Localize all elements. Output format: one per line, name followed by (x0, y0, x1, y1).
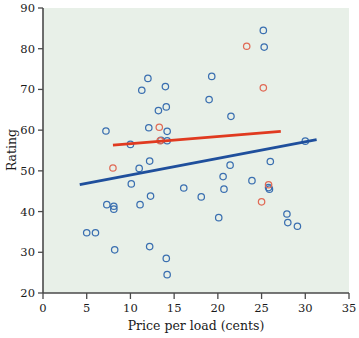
x-tick-label: 25 (254, 301, 269, 315)
y-tick-label: 70 (20, 82, 35, 96)
x-axis-title: Price per load (cents) (128, 318, 265, 333)
x-tick-label: 5 (83, 301, 90, 315)
x-tick-label: 20 (211, 301, 226, 315)
plot-background (43, 8, 349, 293)
y-axis-title: Rating (4, 129, 19, 171)
x-tick-label: 15 (167, 301, 182, 315)
y-axis-ticks: 2030405060708090 (20, 1, 43, 300)
x-tick-label: 0 (39, 301, 46, 315)
x-tick-label: 10 (123, 301, 138, 315)
y-tick-label: 80 (20, 42, 35, 56)
x-axis-ticks: 05101520253035 (39, 293, 356, 315)
x-tick-label: 30 (298, 301, 313, 315)
y-tick-label: 90 (20, 1, 35, 15)
scatter-plot-figure: 2030405060708090 05101520253035 Rating P… (0, 0, 359, 338)
y-tick-label: 40 (20, 205, 35, 219)
y-tick-label: 50 (20, 164, 35, 178)
y-tick-label: 60 (20, 123, 35, 137)
x-tick-label: 35 (342, 301, 357, 315)
y-tick-label: 30 (20, 245, 35, 259)
y-tick-label: 20 (20, 286, 35, 300)
chart-canvas: 2030405060708090 05101520253035 Rating P… (0, 0, 359, 338)
